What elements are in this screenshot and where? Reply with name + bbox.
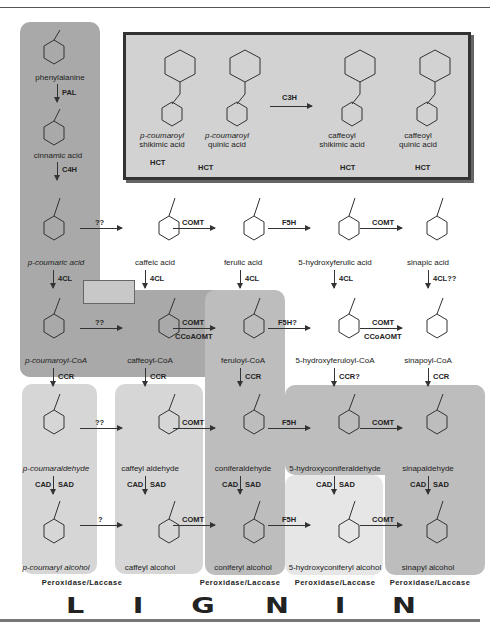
enzyme-4cl-1: 4CL	[58, 274, 72, 283]
enzyme-4cl-4: 4CL	[339, 274, 353, 283]
enzyme-peroxidase-4: Peroxidase/Laccase	[390, 578, 471, 587]
compound-5-hydroxyconiferyl-alcohol: 5-hydroxyconiferyl alcohol	[289, 563, 382, 572]
arrow-ald-1	[80, 428, 122, 429]
lignin-letter-i2: I	[335, 593, 346, 618]
enzyme-ccr-4: CCR?	[339, 372, 360, 381]
enzyme-hct-4: HCT	[415, 163, 430, 172]
arrow-ccr-5	[428, 368, 429, 386]
inset-compound-4-line2: quinic acid	[399, 140, 437, 149]
compound-caffeyl-aldehyde: caffeyl aldehyde	[121, 464, 179, 473]
enzyme-pal: PAL	[62, 88, 76, 97]
arrow-alc-4	[360, 525, 402, 526]
compound-p-coumaryl-alcohol: p-coumaryl alcohol	[22, 563, 89, 572]
enzyme-acid-1: ??	[95, 218, 104, 227]
arrow-4cl-1	[53, 270, 54, 288]
enzyme-sad-4: SAD	[339, 480, 355, 489]
enzyme-cad-2: CAD	[127, 480, 143, 489]
arrow-alc-2	[173, 525, 215, 526]
enzyme-cad-5: CAD	[410, 480, 426, 489]
compound-coniferyl-alcohol: coniferyl alcohol	[214, 563, 271, 572]
arrow-4cl-5	[428, 270, 429, 288]
inset-structures	[135, 38, 455, 130]
enzyme-coa-3: F5H?	[278, 318, 297, 327]
lignin-letter-g: G	[191, 593, 214, 618]
top-rule	[0, 7, 490, 8]
arrow-alc-3	[268, 525, 310, 526]
compound-p-coumaraldehyde: p-coumaraldehyde	[23, 464, 89, 473]
inset-compound-1-line2: shikimic acid	[139, 140, 184, 149]
lignin-letter-l: L	[66, 593, 84, 618]
enzyme-hct-2: HCT	[198, 163, 213, 172]
inset-compound-2-line1: p-coumaroyl	[205, 131, 249, 140]
enzyme-peroxidase-3: Peroxidase/Laccase	[295, 578, 376, 587]
phenylalanine-structure	[30, 28, 90, 68]
enzyme-ccr-2: CCR	[150, 372, 166, 381]
arrow-pal	[57, 84, 58, 102]
inset-compound-2-line2: quinic acid	[208, 140, 246, 149]
arrow-coa-1	[80, 328, 122, 329]
arrow-ald-4	[360, 428, 402, 429]
lignin-letter-i1: I	[133, 593, 144, 618]
enzyme-acid-4: COMT	[372, 218, 394, 227]
arrow-4cl-2	[145, 270, 146, 288]
compound-5-hydroxyferuloyl-coa: 5-hydroxyferuloyl-CoA	[295, 356, 374, 365]
compound-caffeyl-alcohol: caffeyl alcohol	[125, 563, 176, 572]
enzyme-ccr-3: CCR	[245, 372, 261, 381]
inset-compound-1-line1: p-coumaroyl	[140, 131, 184, 140]
lignin-letter-n2: N	[392, 593, 416, 618]
compound-phenylalanine: phenylalanine	[35, 73, 84, 82]
enzyme-cad-1: CAD	[35, 480, 51, 489]
cinnamic-acid-structure	[30, 105, 90, 150]
arrow-cad-2	[145, 476, 146, 494]
compound-sinapyl-alcohol: sinapyl alcohol	[402, 563, 454, 572]
enzyme-coa-2b: CCoAOMT	[175, 332, 213, 341]
enzyme-hct-1: HCT	[150, 158, 165, 167]
arrow-4cl-3	[240, 270, 241, 288]
enzyme-4cl-5: 4CL??	[433, 274, 456, 283]
enzyme-alc-4: COMT	[372, 515, 394, 524]
arrow-ccr-1	[53, 368, 54, 386]
compound-p-coumaric-acid: p-coumaric acid	[28, 258, 84, 267]
arrow-acid-4	[360, 228, 402, 229]
enzyme-alc-1: ?	[98, 515, 103, 524]
arrow-ccr-3	[240, 368, 241, 386]
enzyme-ccr-5: CCR	[433, 372, 449, 381]
compound-coniferaldehyde: coniferaldehyde	[215, 464, 271, 473]
enzyme-coa-2a: COMT	[182, 318, 204, 327]
arrow-coa-3	[268, 328, 310, 329]
compound-p-coumaroyl-coa: p-coumaroyl-CoA	[25, 356, 87, 365]
inset-compound-3-line2: shikimic acid	[319, 140, 364, 149]
inset-compound-4-line1: caffeoyl	[404, 131, 431, 140]
enzyme-hct-3: HCT	[340, 163, 355, 172]
arrow-ald-2	[173, 428, 215, 429]
enzyme-ald-4: COMT	[372, 418, 394, 427]
enzyme-4cl-3: 4CL	[245, 274, 259, 283]
enzyme-cad-3: CAD	[222, 480, 238, 489]
compound-caffeoyl-coa: caffeoyl-CoA	[127, 356, 173, 365]
compound-feruloyl-coa: feruloyl-CoA	[221, 356, 265, 365]
enzyme-4cl-2: 4CL	[150, 274, 164, 283]
arrow-ald-3	[268, 428, 310, 429]
arrow-acid-2	[173, 228, 215, 229]
arrow-cad-4	[334, 476, 335, 494]
compound-cinnamic-acid: cinnamic acid	[34, 151, 82, 160]
arrow-cad-3	[240, 476, 241, 494]
enzyme-coa-4a: COMT	[372, 318, 394, 327]
compound-caffeic-acid: caffeic acid	[135, 258, 175, 267]
enzyme-ald-2: COMT	[182, 418, 204, 427]
enzyme-sad-3: SAD	[245, 480, 261, 489]
enzyme-peroxidase-2: Peroxidase/Laccase	[200, 578, 281, 587]
enzyme-coa-1: ??	[95, 318, 104, 327]
aldehyde-row-structures	[30, 390, 460, 442]
enzyme-sad-2: SAD	[150, 480, 166, 489]
enzyme-c4h: C4H	[62, 165, 77, 174]
compound-sinapic-acid: sinapic acid	[407, 258, 449, 267]
enzyme-ald-3: F5H	[282, 418, 296, 427]
enzyme-alc-3: F5H	[282, 515, 296, 524]
arrow-acid-1	[80, 228, 122, 229]
enzyme-ccr-1: CCR	[58, 372, 74, 381]
compound-5-hydroxyconiferaldehyde: 5-hydroxyconiferaldehyde	[289, 464, 381, 473]
enzyme-cad-4: CAD	[316, 480, 332, 489]
arrow-4cl-4	[334, 270, 335, 288]
enzyme-alc-2: COMT	[182, 515, 204, 524]
